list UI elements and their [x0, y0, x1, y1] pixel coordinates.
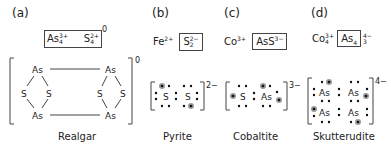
cobaltite-structure: 3− S As	[225, 80, 300, 116]
svg-text:As: As	[319, 88, 330, 98]
formula-cation: As	[47, 33, 59, 44]
formula-cation: Fe	[153, 36, 164, 47]
group-count: 3	[363, 38, 367, 45]
svg-text:2−: 2−	[206, 81, 218, 90]
formula-cation: Co	[224, 36, 237, 47]
svg-text:0: 0	[135, 56, 140, 65]
svg-text:S: S	[120, 89, 126, 99]
panel-label-b: (b)	[152, 6, 169, 20]
pyrite-structure: 2− S S	[150, 80, 225, 116]
cation-count: 4	[325, 38, 329, 45]
mineral-name-pyrite: Pyrite	[163, 131, 192, 142]
svg-text:S: S	[46, 89, 52, 99]
mineral-name-realgar: Realgar	[58, 131, 96, 142]
svg-text:3−: 3−	[289, 81, 300, 90]
svg-text:S: S	[97, 89, 103, 99]
svg-text:S: S	[240, 92, 246, 102]
mineral-name-cobaltite: Cobaltite	[233, 131, 278, 142]
cation-charge: 3+	[237, 35, 246, 42]
anion-count: 4	[90, 38, 94, 45]
svg-text:As: As	[32, 111, 43, 121]
panel-label-c: (c)	[224, 6, 240, 20]
formula-pyrite: Fe2+ S2−2	[153, 33, 203, 51]
panel-label-a: (a)	[12, 6, 29, 20]
anion-count: 4	[353, 39, 357, 46]
svg-text:As: As	[348, 88, 359, 98]
svg-text:As: As	[105, 65, 116, 75]
svg-text:As: As	[319, 108, 330, 118]
svg-text:As: As	[348, 108, 359, 118]
mineral-name-skutterudite: Skutterudite	[313, 131, 375, 142]
anion-count: 2	[190, 41, 194, 48]
panel-label-d: (d)	[311, 6, 328, 20]
formula-anion: AsS	[256, 36, 274, 47]
formula-anion: As	[341, 33, 353, 44]
formula-cobaltite: Co3+ AsS3−	[224, 33, 287, 50]
formula-skutterudite: Co3+4 As4 4−3	[312, 30, 372, 47]
realgar-structure: 0 As S S As As S S As	[8, 55, 143, 127]
svg-text:S: S	[185, 92, 191, 102]
formula-total-charge: 0	[102, 25, 107, 34]
formula-cation: Co	[312, 33, 325, 44]
svg-text:As: As	[32, 65, 43, 75]
skutterudite-structure: 4− As As As As	[307, 76, 391, 130]
svg-text:As: As	[105, 111, 116, 121]
svg-text:As: As	[261, 92, 272, 102]
anion-charge: 3−	[275, 35, 284, 42]
cation-charge: 2+	[164, 35, 173, 42]
cation-count: 4	[59, 38, 63, 45]
svg-text:S: S	[21, 89, 27, 99]
svg-text:S: S	[163, 92, 169, 102]
formula-realgar: As3+4 S2+4 0	[44, 30, 107, 48]
svg-text:4−: 4−	[375, 77, 387, 86]
